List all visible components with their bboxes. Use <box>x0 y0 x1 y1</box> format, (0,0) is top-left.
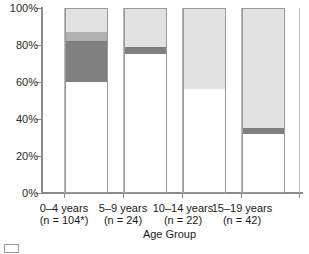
x-axis-title: Age Group <box>0 228 309 240</box>
bar-segment-1 <box>242 134 285 193</box>
bar-15-19-years[interactable] <box>242 8 285 193</box>
x-label-line1: 5–9 years <box>99 202 147 214</box>
bar-segment-4 <box>124 8 167 47</box>
bar-0-4-years[interactable] <box>65 8 108 193</box>
bar-segment-4 <box>183 8 226 89</box>
x-label-15-19-years: 15–19 years (n = 42) <box>207 203 277 226</box>
x-tick <box>123 193 124 198</box>
y-tick-label: 100% <box>10 3 38 14</box>
plot-area: 100% 80% 60% 40% 20% 0% <box>43 8 301 193</box>
bar-5-9-years[interactable] <box>124 8 167 193</box>
x-label-line1: 0–4 years <box>40 202 88 214</box>
legend <box>4 244 26 254</box>
y-tick-label: 40% <box>16 114 38 125</box>
bar-10-14-years[interactable] <box>183 8 226 193</box>
bar-segment-4 <box>65 8 108 32</box>
x-tick <box>241 193 242 198</box>
x-label-line2: (n = 42) <box>207 215 277 227</box>
bar-segment-1 <box>65 82 108 193</box>
x-label-line1: 10–14 years <box>153 202 214 214</box>
legend-swatch-icon <box>4 244 19 253</box>
x-tick <box>299 193 300 198</box>
bar-segment-1 <box>124 54 167 193</box>
y-tick-label: 20% <box>16 151 38 162</box>
x-label-0-4-years: 0–4 years (n = 104*) <box>33 203 95 226</box>
x-label-line2: (n = 104*) <box>33 215 95 227</box>
x-axis-title-text: Age Group <box>143 228 196 240</box>
bar-segment-2 <box>124 47 167 54</box>
bar-segment-4 <box>242 8 285 128</box>
y-tick-label: 80% <box>16 40 38 51</box>
bar-segment-3 <box>65 32 108 41</box>
x-separator <box>299 8 300 193</box>
stacked-bar-chart: 100% 80% 60% 40% 20% 0% <box>0 0 309 254</box>
x-tick <box>182 193 183 198</box>
y-tick-label: 60% <box>16 77 38 88</box>
y-tick-label: 0% <box>22 188 38 199</box>
bar-segment-1 <box>183 89 226 193</box>
x-label-line2: (n = 24) <box>92 215 154 227</box>
x-label-5-9-years: 5–9 years (n = 24) <box>92 203 154 226</box>
x-label-line1: 15–19 years <box>212 202 273 214</box>
x-tick <box>64 193 65 198</box>
bar-segment-2 <box>242 128 285 134</box>
bar-segment-2 <box>65 41 108 82</box>
